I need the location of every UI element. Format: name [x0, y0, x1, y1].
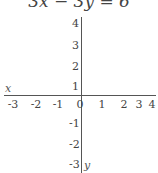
y-tick-label: -1	[69, 117, 79, 130]
y-tick-label: 4	[69, 17, 79, 30]
chart-title: 3x − 3y = 6	[0, 0, 158, 11]
y-axis-line	[81, 17, 82, 173]
y-axis-label: y	[84, 159, 90, 172]
y-tick-label: -2	[69, 138, 79, 151]
x-tick-label: -3	[5, 98, 21, 111]
y-tick-label: 3	[69, 39, 79, 52]
x-tick-label: 1	[94, 98, 110, 111]
x-tick-label: 4	[146, 98, 158, 111]
x-axis-label: x	[5, 82, 11, 95]
y-tick-label: 2	[69, 60, 79, 73]
x-tick-label: -1	[50, 98, 66, 111]
x-tick-label: 3	[131, 98, 147, 111]
x-tick-label: -2	[28, 98, 44, 111]
x-axis-line	[4, 95, 156, 96]
x-tick-label: 0	[72, 98, 88, 111]
y-tick-label: 1	[69, 80, 79, 93]
x-tick-label: 2	[116, 98, 132, 111]
y-tick-label: -3	[69, 158, 79, 171]
